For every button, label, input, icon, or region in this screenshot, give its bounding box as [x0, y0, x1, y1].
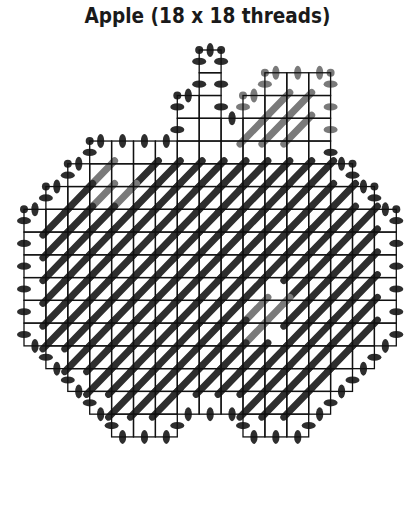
stitch-chart [0, 0, 415, 512]
grid-cell [199, 118, 221, 141]
